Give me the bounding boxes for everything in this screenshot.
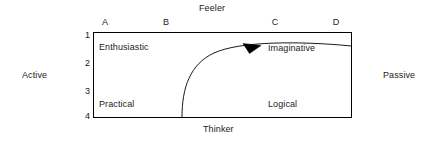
y-tick-1: 1 (78, 30, 90, 41)
quadrant-label-logical: Logical (268, 99, 297, 110)
axis-label-thinker: Thinker (203, 124, 234, 135)
quadrant-plot-svg (0, 0, 441, 141)
x-tick-c: C (268, 17, 282, 28)
y-tick-4: 4 (78, 111, 90, 122)
trajectory-arrowhead (243, 44, 261, 54)
axis-label-active: Active (22, 70, 47, 81)
personality-quadrant-figure: Feeler Thinker Active Passive A B C D 1 … (0, 0, 441, 141)
quadrant-label-imaginative: Imaginative (268, 43, 315, 54)
y-tick-2: 2 (78, 58, 90, 69)
x-tick-a: A (98, 17, 112, 28)
x-tick-b: B (159, 17, 173, 28)
quadrant-label-practical: Practical (99, 99, 134, 110)
y-tick-3: 3 (78, 86, 90, 97)
axis-label-passive: Passive (383, 70, 415, 81)
axis-label-feeler: Feeler (199, 3, 225, 14)
x-tick-d: D (329, 17, 343, 28)
quadrant-label-enthusiastic: Enthusiastic (99, 42, 149, 53)
trajectory-curve (182, 43, 352, 117)
